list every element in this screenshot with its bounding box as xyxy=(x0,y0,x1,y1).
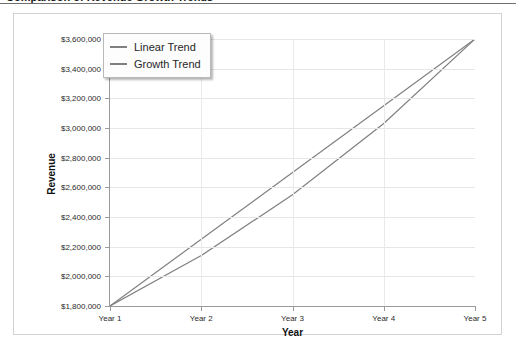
y-axis-tick-label: $3,200,000 xyxy=(61,94,101,103)
x-axis-tick xyxy=(384,306,385,311)
y-axis-tick xyxy=(105,217,110,218)
legend-label: Linear Trend xyxy=(134,41,196,53)
y-axis-tick-label: $3,400,000 xyxy=(61,64,101,73)
gridline xyxy=(201,39,202,306)
y-axis-tick-label: $2,200,000 xyxy=(61,242,101,251)
y-axis-tick-label: $3,600,000 xyxy=(61,35,101,44)
y-axis-tick xyxy=(105,158,110,159)
chart-container: Revenue Year $3,600,000$3,400,000$3,200,… xyxy=(13,13,502,335)
x-axis-tick-label: Year 2 xyxy=(190,314,213,323)
y-axis-line xyxy=(109,39,110,307)
top-divider-rule xyxy=(0,3,516,4)
x-axis-tick-label: Year 3 xyxy=(281,314,304,323)
gridline xyxy=(384,39,385,306)
y-axis-tick-label: $2,800,000 xyxy=(61,153,101,162)
y-axis-tick-label: $2,400,000 xyxy=(61,213,101,222)
y-axis-tick-label: $3,000,000 xyxy=(61,124,101,133)
y-axis-tick xyxy=(105,247,110,248)
y-axis-tick-label: $2,600,000 xyxy=(61,183,101,192)
x-axis-tick xyxy=(293,306,294,311)
x-axis-tick xyxy=(201,306,202,311)
y-axis-tick-label: $1,800,000 xyxy=(61,302,101,311)
y-axis-tick xyxy=(105,187,110,188)
x-axis-tick xyxy=(475,306,476,311)
legend-line-swatch-icon xyxy=(110,63,127,65)
cutoff-heading-text: Comparison of Revenue Growth Trends xyxy=(0,0,516,3)
plot-area: $3,600,000$3,400,000$3,200,000$3,000,000… xyxy=(110,39,475,306)
y-axis-tick xyxy=(105,128,110,129)
legend-label: Growth Trend xyxy=(134,58,201,70)
legend-item[interactable]: Linear Trend xyxy=(110,38,201,55)
y-axis-tick xyxy=(105,276,110,277)
x-axis-tick xyxy=(110,306,111,311)
x-axis-title: Year xyxy=(110,327,475,338)
y-axis-tick xyxy=(105,98,110,99)
x-axis-tick-label: Year 4 xyxy=(372,314,395,323)
chart-legend: Linear TrendGrowth Trend xyxy=(103,33,211,78)
y-axis-tick-label: $2,000,000 xyxy=(61,272,101,281)
x-axis-tick-label: Year 5 xyxy=(464,314,487,323)
gridline xyxy=(293,39,294,306)
legend-line-swatch-icon xyxy=(110,46,127,48)
legend-item[interactable]: Growth Trend xyxy=(110,55,201,72)
y-axis-title: Revenue xyxy=(46,153,57,195)
x-axis-tick-label: Year 1 xyxy=(99,314,122,323)
